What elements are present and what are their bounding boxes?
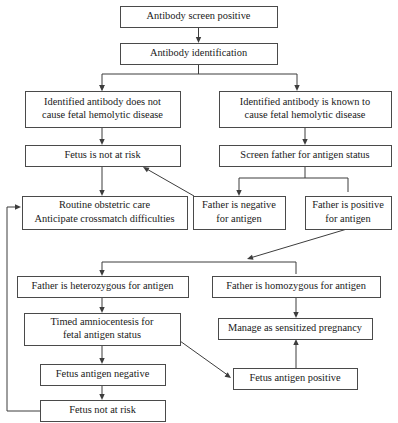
node-label-father-is-negative-for-antigen-line-2: for antigen [216,213,262,224]
edge-known-cause-to-screen-father-arrowhead [302,139,307,145]
edge-homozygous-to-manage-arrowhead [293,312,298,318]
flowchart-diagram: Antibody screen positiveAntibody identif… [0,0,398,423]
edge-split-to-left-branch-arrowhead [99,85,104,91]
edge-fetus-not-at-risk-feedback-to-routine-care-arrowhead [15,204,21,209]
node-label-fetus-not-at-risk: Fetus not at risk [69,404,136,415]
node-label-routine-obstetric-care-line-1: Routine obstetric care [59,199,151,210]
node-fetus-antigen-negative[interactable]: Fetus antigen negative [41,365,166,386]
node-label-routine-obstetric-care-line-2: Anticipate crossmatch difficulties [34,213,174,224]
edge-split-to-right-branch-arrowhead [294,85,299,91]
edge-not-cause-to-fetus-not-at-risk-arrowhead [99,139,104,145]
edge-screen-father-split-arrowhead [236,190,241,196]
node-fetus-not-at-risk[interactable]: Fetus not at risk [41,401,166,422]
edge-father-negative-to-fetus-not-at-risk [145,168,194,196]
edge-amniocentesis-to-fetus-antigen-negative-arrowhead [99,358,104,364]
node-fetus-antigen-positive[interactable]: Fetus antigen positive [234,369,358,390]
node-label-fetus-antigen-positive: Fetus antigen positive [249,372,341,383]
node-father-is-heterozygous-for-antigen[interactable]: Father is heterozygous for antigen [18,277,189,298]
node-routine-obstetric-care[interactable]: Routine obstetric careAnticipate crossma… [23,197,188,230]
edge-amniocentesis-to-fetus-antigen-positive [180,341,229,376]
node-antibody-screen-positive[interactable]: Antibody screen positive [121,7,278,28]
node-label-antibody-known-to-cause-fetal-hemolytic-disease-line-2: cause fetal hemolytic disease [245,109,366,120]
node-father-is-positive-for-antigen[interactable]: Father is positivefor antigen [306,197,392,230]
edge-heterozygous-to-amniocentesis-arrowhead [99,307,104,313]
node-label-fetus-is-not-at-risk: Fetus is not at risk [64,149,141,160]
node-label-screen-father-for-antigen-status: Screen father for antigen status [240,149,369,160]
node-label-father-is-positive-for-antigen-line-2: for antigen [325,213,371,224]
node-label-father-is-heterozygous-for-antigen: Father is heterozygous for antigen [32,280,175,291]
node-antibody-identification[interactable]: Antibody identification [121,44,278,65]
edge-fetus-not-at-risk-to-routine-care-arrowhead [99,190,104,196]
node-label-antibody-does-not-cause-fetal-hemolytic-disease-line-1: Identified antibody does not [44,96,161,107]
node-label-antibody-does-not-cause-fetal-hemolytic-disease-line-2: cause fetal hemolytic disease [42,109,163,120]
edge-zygosity-split [102,262,296,274]
node-screen-father-for-antigen-status[interactable]: Screen father for antigen status [220,146,392,167]
node-label-antibody-screen-positive: Antibody screen positive [147,10,251,21]
edge-screen-father-split [239,166,348,192]
edge-fetus-antigen-negative-to-not-at-risk-arrowhead [99,394,104,400]
edge-zygosity-split-arrowhead [99,270,104,276]
edge-fetus-not-at-risk-feedback-to-routine-care [7,207,40,411]
node-label-timed-amniocentesis-for-fetal-antigen-status-line-1: Timed amniocentesis for [51,316,154,327]
node-label-father-is-homozygous-for-antigen: Father is homozygous for antigen [226,280,366,291]
edge-father-positive-to-zygosity-split-arrowhead [247,255,254,260]
edge-father-positive-to-zygosity-split [250,229,347,258]
node-manage-as-sensitized-pregnancy[interactable]: Manage as sensitized pregnancy [219,319,373,340]
node-label-timed-amniocentesis-for-fetal-antigen-status-line-2: fetal antigen status [63,329,141,340]
node-label-fetus-antigen-negative: Fetus antigen negative [56,368,150,379]
node-antibody-known-to-cause-fetal-hemolytic-disease[interactable]: Identified antibody is known tocause fet… [220,92,392,128]
node-label-father-is-positive-for-antigen-line-1: Father is positive [312,199,384,210]
edge-identification-split [102,64,297,87]
node-antibody-does-not-cause-fetal-hemolytic-disease[interactable]: Identified antibody does notcause fetal … [26,92,181,128]
node-label-manage-as-sensitized-pregnancy: Manage as sensitized pregnancy [228,322,363,333]
node-label-antibody-known-to-cause-fetal-hemolytic-disease-line-1: Identified antibody is known to [240,96,370,107]
edge-screen-positive-to-identification-arrowhead [196,37,201,43]
node-timed-amniocentesis-for-fetal-antigen-status[interactable]: Timed amniocentesis forfetal antigen sta… [25,314,181,346]
node-label-antibody-identification: Antibody identification [150,47,248,58]
node-label-father-is-negative-for-antigen-line-1: Father is negative [202,199,276,210]
flowchart-canvas: Antibody screen positiveAntibody identif… [0,0,398,423]
node-fetus-is-not-at-risk[interactable]: Fetus is not at risk [26,146,181,167]
node-father-is-homozygous-for-antigen[interactable]: Father is homozygous for antigen [213,277,381,298]
nodes-layer: Antibody screen positiveAntibody identif… [18,7,392,422]
node-father-is-negative-for-antigen[interactable]: Father is negativefor antigen [194,197,286,230]
